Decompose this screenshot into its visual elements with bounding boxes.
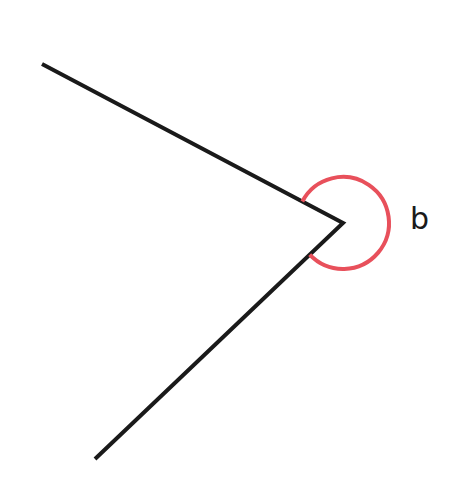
angle-rays (42, 64, 343, 459)
angle-label: b (410, 204, 429, 234)
angle-diagram (0, 0, 458, 490)
